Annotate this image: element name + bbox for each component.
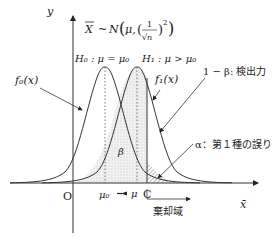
distribution-formula: X ~ N ( μ, ( 1 √n ) 2 )	[84, 19, 174, 42]
svg-text:): )	[168, 19, 174, 38]
h1-label: H₁ : μ > μ₀	[141, 53, 196, 64]
beta-label: β	[117, 146, 124, 157]
f0-pointer	[40, 88, 82, 110]
svg-text:2: 2	[163, 19, 167, 27]
alpha-label: α：第１種の誤り	[195, 138, 272, 150]
y-axis-label: y	[46, 5, 54, 18]
beta-region	[75, 67, 147, 183]
svg-text:X: X	[84, 23, 94, 36]
h0-label: H₀ : μ = μ₀	[74, 53, 129, 64]
power-pointer	[160, 78, 205, 132]
alpha-pointer	[158, 144, 193, 178]
f1-label: f₁(x)	[154, 73, 178, 86]
c-tick-label: C	[143, 188, 151, 201]
mu-tick-label: μ	[131, 188, 138, 199]
mu0-tick-label: μ₀	[99, 189, 110, 200]
svg-text:N: N	[108, 23, 119, 36]
svg-text:~: ~	[98, 23, 107, 36]
svg-text:1: 1	[147, 20, 152, 29]
f0-label: f₀(x)	[14, 74, 38, 87]
origin-label: O	[63, 190, 72, 203]
svg-text:√n: √n	[142, 33, 152, 42]
hypothesis-test-diagram: y O x̄ X ~ N ( μ, ( 1 √n ) 2 ) H₀ : μ = …	[0, 0, 272, 240]
x-axis-label: x̄	[240, 198, 247, 211]
svg-text:μ,: μ,	[125, 23, 136, 36]
f1-pointer	[153, 90, 160, 100]
rejection-region-label: 棄却域	[153, 205, 183, 217]
power-label: 1 − β: 検出力	[203, 65, 266, 77]
